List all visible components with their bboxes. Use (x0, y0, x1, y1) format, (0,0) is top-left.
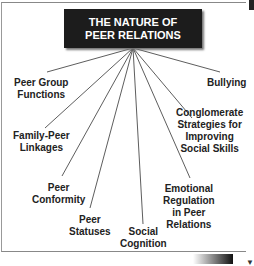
node-peer-group-functions: Peer Group Functions (14, 77, 68, 101)
line-social-cognition (133, 48, 143, 224)
title-line-1: THE NATURE OF (64, 16, 202, 29)
line-bullying (133, 48, 220, 72)
down-arrow-icon: ▼ (246, 258, 254, 266)
title-line-2: PEER RELATIONS (64, 29, 202, 42)
node-emotional-regulation: Emotional Regulation in Peer Relations (163, 183, 215, 231)
line-peer-statuses (90, 48, 133, 208)
node-bullying: Bullying (207, 77, 246, 89)
central-title: THE NATURE OF PEER RELATIONS (64, 9, 202, 48)
node-social-cognition: Social Cognition (120, 226, 167, 250)
line-peer-conformity (62, 48, 133, 176)
gradient-bar (193, 254, 233, 264)
node-peer-conformity: Peer Conformity (32, 182, 85, 206)
node-peer-statuses: Peer Statuses (69, 214, 111, 238)
node-conglomerate-strategies: Conglomerate Strategies for Improving So… (176, 107, 243, 155)
node-family-peer-linkages: Family-Peer Linkages (13, 130, 70, 154)
